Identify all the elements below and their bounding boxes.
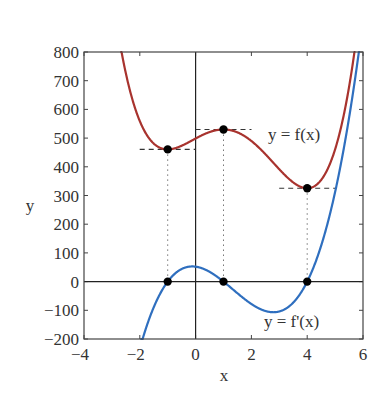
x-tick-label: 2: [247, 345, 256, 364]
y-tick-label: 300: [54, 187, 80, 206]
f-critical-point: [164, 145, 172, 153]
fprime-zero-point: [219, 277, 227, 285]
fprime-curve-label: y = f'(x): [264, 312, 319, 331]
x-tick-label: −4: [71, 345, 90, 364]
x-tick-label: 0: [191, 345, 200, 364]
x-axis-label: x: [220, 366, 229, 385]
y-tick-label: 0: [71, 273, 80, 292]
fprime-curve: [140, 52, 360, 339]
x-tick-label: 4: [303, 345, 312, 364]
y-axis-label: y: [26, 196, 35, 215]
x-tick-label: −2: [127, 345, 145, 364]
f-critical-point: [219, 125, 227, 133]
y-tick-label: 100: [54, 244, 80, 263]
x-tick-label: 6: [359, 345, 368, 364]
y-tick-label: −100: [44, 301, 79, 320]
y-tick-label: 600: [54, 100, 80, 119]
x-tick-labels: −4−20246: [71, 345, 367, 364]
y-tick-label: 700: [54, 72, 80, 91]
fprime-zero-point: [164, 277, 172, 285]
y-tick-labels: −200−1000100200300400500600700800: [44, 43, 79, 349]
chart: −200−1000100200300400500600700800 −4−202…: [0, 0, 390, 402]
f-curve-label: y = f(x): [268, 125, 320, 144]
y-tick-label: 200: [54, 215, 80, 234]
f-curve: [120, 52, 355, 188]
fprime-zero-point: [303, 277, 311, 285]
y-tick-label: 500: [54, 129, 80, 148]
y-tick-label: 800: [54, 43, 80, 62]
y-tick-label: 400: [54, 158, 80, 177]
f-critical-point: [303, 184, 311, 192]
